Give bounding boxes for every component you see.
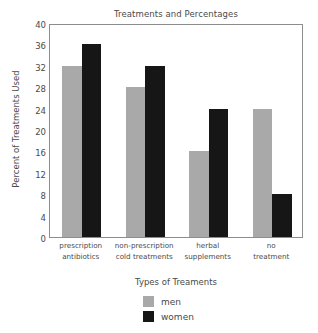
x-tick-label-line: non-prescription [108,241,180,252]
legend-swatch-icon [143,296,154,307]
y-tick-label: 4 [41,213,46,222]
x-tick-label-line: antibiotics [45,252,117,263]
x-tick-label-line: cold treatments [108,252,180,263]
y-tick-label: 16 [35,149,46,158]
y-tick-label: 12 [35,171,46,180]
bar-men-1 [126,87,146,237]
x-axis-label: Types of Treaments [49,277,303,287]
y-tick-label: 20 [35,128,46,137]
legend-swatch-icon [143,311,154,322]
legend-label: women [161,312,194,322]
bar-women-3 [272,194,292,237]
x-tick-label-line: herbal [172,241,244,252]
x-tick-label-line: no [235,241,307,252]
y-tick-label: 36 [35,42,46,51]
x-tick-label-line: supplements [172,252,244,263]
y-tick-label: 28 [35,85,46,94]
x-tick-label: prescriptionantibiotics [45,241,117,262]
bar-men-3 [253,109,273,237]
y-tick-label: 24 [35,106,46,115]
bar-women-1 [145,66,165,237]
bar-women-0 [82,44,102,237]
chart-title: Treatments and Percentages [49,9,303,19]
bar-men-0 [62,66,82,237]
bar-women-2 [209,109,229,237]
bar-men-2 [189,151,209,237]
y-tick-label: 32 [35,64,46,73]
x-tick-label-line: treatment [235,252,307,263]
bar-chart-figure: Treatments and Percentages Percent of Tr… [0,0,318,333]
plot-area: 0481216202428323640 [49,24,303,238]
y-axis-label: Percent of Treatments Used [11,49,21,209]
y-tick-label: 8 [41,192,46,201]
y-tick-label: 40 [35,21,46,30]
x-tick-label: herbalsupplements [172,241,244,262]
x-tick-label: notreatment [235,241,307,262]
legend-item-men: men [49,294,303,309]
chart-legend: menwomen [49,294,303,324]
legend-item-women: women [49,309,303,324]
x-tick-label: non-prescriptioncold treatments [108,241,180,262]
legend-label: men [161,297,181,307]
x-tick-label-line: prescription [45,241,117,252]
